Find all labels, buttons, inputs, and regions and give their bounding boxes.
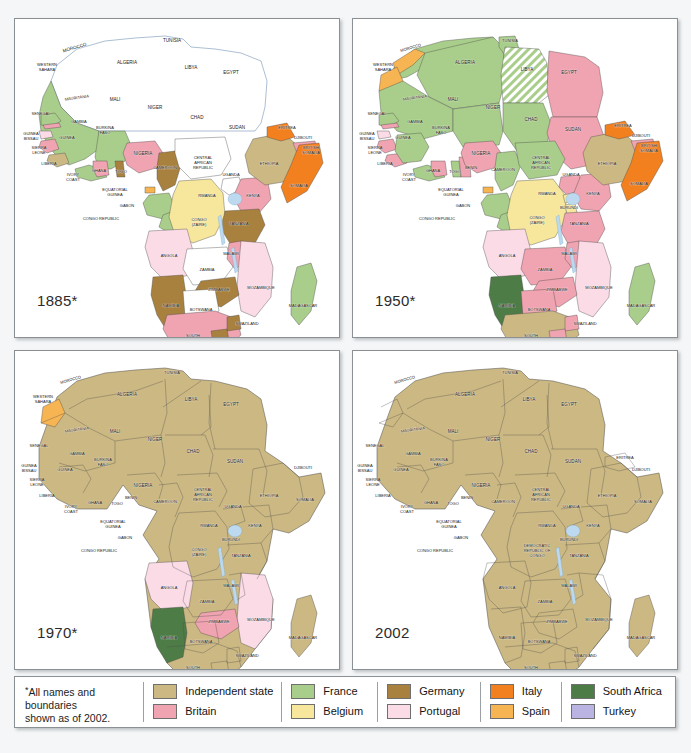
svg-text:BURUNDI: BURUNDI [560, 205, 578, 210]
svg-text:GAMBIA: GAMBIA [71, 119, 87, 124]
legend-item-independent-state[interactable]: Independent state [153, 683, 273, 699]
svg-text:ERITREA: ERITREA [278, 125, 296, 130]
svg-text:REPUBLIC: REPUBLIC [531, 165, 551, 170]
svg-text:GUINEA: GUINEA [441, 524, 457, 529]
swatch-portugal [387, 704, 411, 719]
svg-text:MALAWI: MALAWI [223, 251, 239, 256]
svg-text:CAMEROON: CAMEROON [153, 499, 177, 504]
svg-text:ALGERIA: ALGERIA [117, 392, 138, 397]
svg-text:RWANDA: RWANDA [538, 523, 556, 528]
legend-footnote-line2: shown as of 2002. [25, 712, 110, 724]
africa-map-1950: MOROCCO WESTERNSAHARA ALGERIA TUNISIA LI… [353, 19, 677, 337]
svg-text:SOUTH: SOUTH [186, 333, 200, 337]
svg-text:CAMEROON: CAMEROON [491, 499, 515, 504]
svg-text:MALI: MALI [448, 97, 459, 102]
legend-column-2: France Belgium [282, 677, 377, 727]
svg-text:SENEGAL: SENEGAL [366, 443, 386, 448]
legend-label-germany: Germany [419, 685, 464, 697]
svg-text:KENYA: KENYA [586, 523, 600, 528]
svg-text:ZAMBIA: ZAMBIA [538, 267, 553, 272]
svg-text:KENYA: KENYA [246, 193, 260, 198]
svg-text:TOGO: TOGO [447, 501, 459, 506]
svg-text:KENYA: KENYA [586, 191, 600, 196]
svg-text:CHAD: CHAD [524, 449, 538, 454]
map-panel-2002[interactable]: MOROCCO ALGERIA TUNISIA LIBYA EGYPT MAUR… [352, 350, 678, 670]
legend-item-portugal[interactable]: Portugal [387, 703, 472, 719]
map-panel-1970[interactable]: MOROCCO WESTERNSAHARA ALGERIA TUNISIA LI… [14, 350, 340, 670]
year-label-2002: 2002 [375, 624, 410, 641]
svg-text:SUDAN: SUDAN [227, 459, 243, 464]
svg-text:LEONE: LEONE [366, 482, 380, 487]
svg-text:SWAZILAND: SWAZILAND [235, 321, 258, 326]
svg-text:GABON: GABON [120, 203, 135, 208]
svg-text:EGYPT: EGYPT [561, 402, 577, 407]
svg-text:NAMIBIA: NAMIBIA [499, 635, 516, 640]
svg-text:BENIN: BENIN [461, 495, 473, 500]
svg-text:SOMALIA: SOMALIA [630, 181, 648, 186]
svg-text:ZIMBABWE: ZIMBABWE [546, 287, 568, 292]
svg-text:ZAMBIA: ZAMBIA [200, 267, 215, 272]
map-panel-1950[interactable]: MOROCCO WESTERNSAHARA ALGERIA TUNISIA LI… [352, 18, 678, 338]
swatch-spain [490, 704, 514, 719]
svg-text:LEONE: LEONE [368, 150, 382, 155]
legend-item-turkey[interactable]: Turkey [571, 703, 667, 719]
svg-text:BOTSWANA: BOTSWANA [190, 307, 213, 312]
svg-text:COAST: COAST [64, 509, 78, 514]
svg-text:NIGER: NIGER [148, 437, 163, 442]
svg-text:NIGERIA: NIGERIA [472, 483, 492, 488]
svg-text:SOUTH: SOUTH [524, 665, 538, 669]
svg-text:TOGO: TOGO [449, 169, 461, 174]
svg-text:LIBERIA: LIBERIA [377, 161, 393, 166]
africa-map-1970: MOROCCO WESTERNSAHARA ALGERIA TUNISIA LI… [15, 351, 339, 669]
svg-text:LIBERIA: LIBERIA [375, 493, 391, 498]
svg-text:NIGER: NIGER [148, 105, 163, 110]
legend-label-independent-state: Independent state [185, 685, 273, 697]
svg-text:BISSAU: BISSAU [24, 136, 39, 141]
svg-text:ZIMBABWE: ZIMBABWE [208, 287, 230, 292]
svg-text:TANZANIA: TANZANIA [569, 221, 589, 226]
svg-text:UGANDA: UGANDA [222, 172, 239, 177]
svg-text:BENIN: BENIN [465, 165, 477, 170]
svg-text:GAMBIA: GAMBIA [69, 451, 85, 456]
svg-text:BURUNDI: BURUNDI [560, 537, 578, 542]
svg-text:TANZANIA: TANZANIA [569, 553, 589, 558]
svg-text:BENIN: BENIN [125, 495, 137, 500]
svg-text:CONGO REPUBLIC: CONGO REPUBLIC [417, 548, 453, 553]
legend-label-belgium: Belgium [323, 705, 363, 717]
svg-text:GHANA: GHANA [426, 168, 441, 173]
swatch-south-africa [571, 684, 595, 699]
legend-item-spain[interactable]: Spain [490, 703, 553, 719]
swatch-france [291, 684, 315, 699]
legend-label-france: France [323, 685, 357, 697]
swatch-britain [153, 704, 177, 719]
svg-text:LIBYA: LIBYA [185, 65, 199, 70]
svg-text:CONGO REPUBLIC: CONGO REPUBLIC [81, 548, 117, 553]
svg-text:MALAWI: MALAWI [561, 251, 577, 256]
svg-text:FASO: FASO [98, 462, 109, 467]
svg-text:MOZAMBIQUE: MOZAMBIQUE [585, 617, 613, 622]
svg-text:SENEGAL: SENEGAL [368, 111, 388, 116]
legend-item-italy[interactable]: Italy [490, 683, 553, 699]
svg-text:KENYA: KENYA [248, 523, 262, 528]
svg-text:GUINEA: GUINEA [59, 135, 75, 140]
svg-text:ETHIOPIA: ETHIOPIA [260, 493, 279, 498]
svg-text:GHANA: GHANA [88, 500, 103, 505]
svg-text:MALI: MALI [448, 429, 459, 434]
svg-text:SENEGAL: SENEGAL [32, 111, 52, 116]
legend-item-france[interactable]: France [291, 683, 369, 699]
legend-item-germany[interactable]: Germany [387, 683, 472, 699]
map-panel-1885[interactable]: MOROCCO WESTERNSAHARA ALGERIA TUNISIA LI… [14, 18, 340, 338]
legend-item-britain[interactable]: Britain [153, 703, 273, 719]
svg-text:(ZAIRE): (ZAIRE) [192, 222, 207, 227]
svg-text:NIGERIA: NIGERIA [134, 151, 154, 156]
svg-text:UGANDA: UGANDA [562, 504, 579, 509]
legend-label-south-africa: South Africa [603, 685, 662, 697]
svg-text:SWAZILAND: SWAZILAND [235, 653, 258, 658]
svg-text:EGYPT: EGYPT [223, 402, 239, 407]
svg-text:GUINEA: GUINEA [395, 135, 411, 140]
svg-text:BOTSWANA: BOTSWANA [190, 639, 213, 644]
svg-text:CAMEROON: CAMEROON [491, 167, 515, 172]
svg-text:DJIBOUTI: DJIBOUTI [632, 467, 650, 472]
legend-item-south-africa[interactable]: South Africa [571, 683, 667, 699]
legend-item-belgium[interactable]: Belgium [291, 703, 369, 719]
